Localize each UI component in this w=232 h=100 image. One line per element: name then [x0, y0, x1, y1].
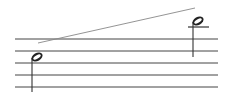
glissando-line — [38, 8, 195, 43]
music-staff — [0, 0, 232, 100]
